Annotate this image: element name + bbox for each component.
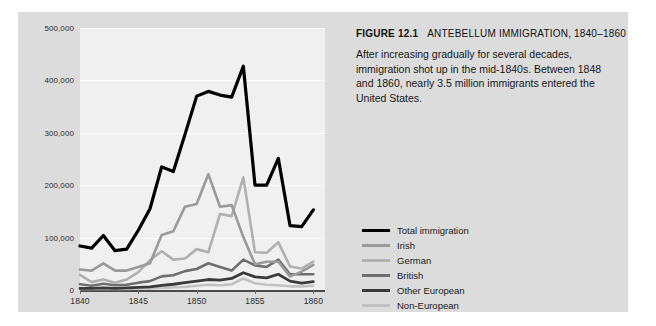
x-tick-label: 1845 [129, 296, 148, 306]
x-tick-label: 1840 [70, 296, 89, 306]
legend-swatch [362, 289, 390, 292]
legend-label: British [397, 270, 423, 281]
figure-number: FIGURE 12.1 [356, 28, 418, 39]
legend-item: Irish [362, 238, 602, 253]
legend-label: Non-European [397, 300, 459, 311]
series-line [80, 66, 313, 250]
legend: Total immigrationIrishGermanBritishOther… [362, 223, 602, 313]
legend-item: Non-European [362, 298, 602, 313]
plot-frame: 0100,000200,000300,000400,000500,000 184… [80, 28, 325, 290]
legend-swatch [362, 244, 390, 247]
x-tick-mark [255, 290, 256, 294]
y-tick-label: 200,000 [44, 181, 74, 190]
legend-label: Total immigration [397, 225, 469, 236]
figure-panel: Reform Movement 0100,000200,000300,00040… [18, 12, 628, 312]
y-tick-label: 400,000 [44, 76, 74, 85]
y-tick-label: 500,000 [44, 24, 74, 33]
series-line [80, 174, 313, 276]
legend-swatch [362, 304, 390, 307]
chart-area: 0100,000200,000300,000400,000500,000 184… [18, 12, 348, 312]
figure-title-text: ANTEBELLUM IMMIGRATION, 1840–1860 [427, 28, 626, 39]
legend-label: Irish [397, 240, 415, 251]
series-line [80, 177, 313, 282]
series-lines [80, 28, 325, 290]
figure-title: FIGURE 12.1ANTEBELLUM IMMIGRATION, 1840–… [356, 28, 618, 39]
figure-caption: After increasing gradually for several d… [356, 47, 618, 105]
legend-item: Other European [362, 283, 602, 298]
legend-item: Total immigration [362, 223, 602, 238]
x-tick-mark [197, 290, 198, 294]
figure-text-block: FIGURE 12.1ANTEBELLUM IMMIGRATION, 1840–… [356, 28, 618, 105]
legend-item: British [362, 268, 602, 283]
x-tick-label: 1860 [304, 296, 323, 306]
legend-item: German [362, 253, 602, 268]
legend-label: Other European [397, 285, 465, 296]
y-tick-label: 0 [69, 286, 74, 295]
x-tick-mark [313, 290, 314, 294]
x-tick-label: 1855 [245, 296, 264, 306]
x-tick-label: 1850 [187, 296, 206, 306]
legend-swatch [362, 229, 390, 232]
y-tick-label: 300,000 [44, 128, 74, 137]
y-tick-label: 100,000 [44, 233, 74, 242]
x-tick-mark [138, 290, 139, 294]
legend-swatch [362, 274, 390, 277]
legend-swatch [362, 259, 390, 262]
legend-label: German [397, 255, 431, 266]
x-tick-mark [80, 290, 81, 294]
